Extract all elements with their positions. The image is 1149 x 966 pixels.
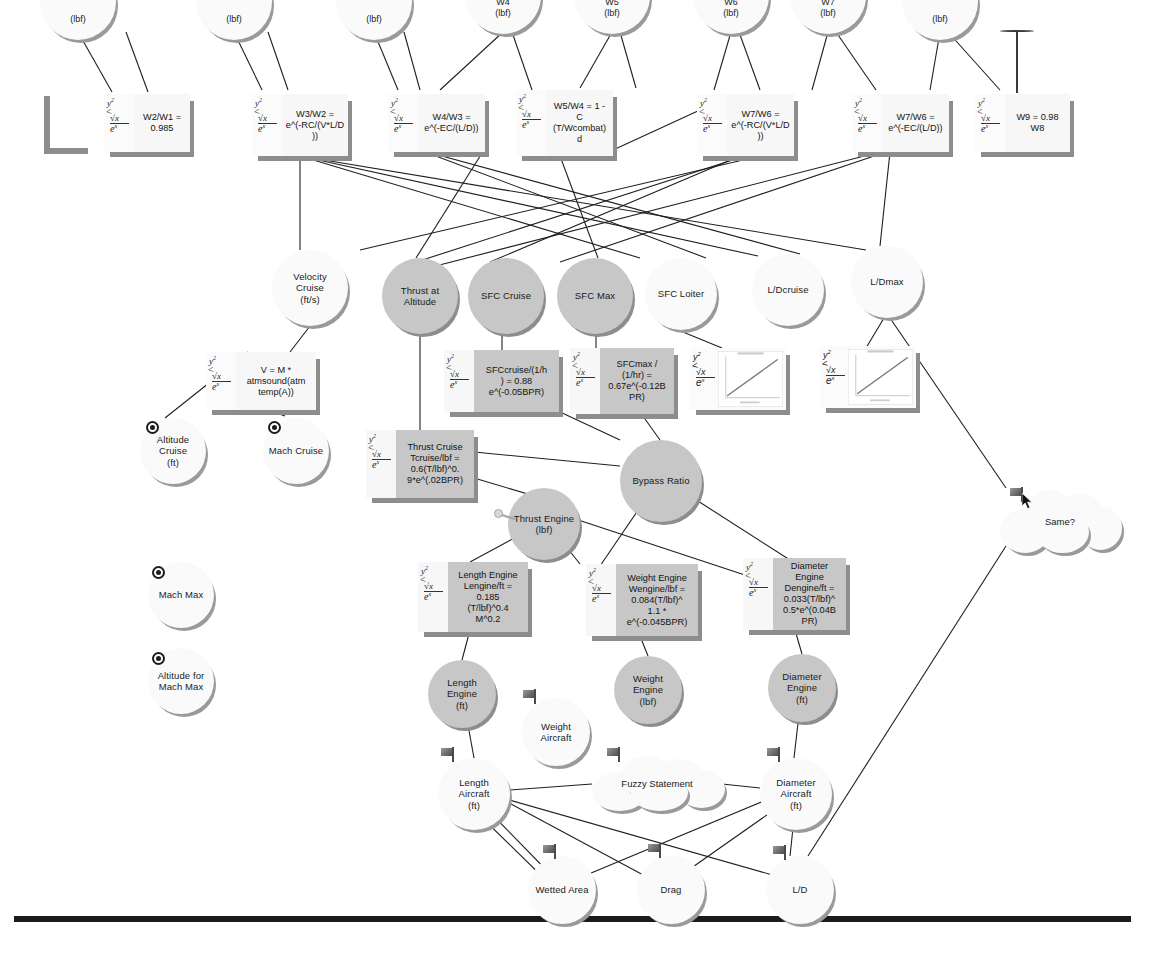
mouse-cursor xyxy=(1022,493,1034,510)
node-label: L/Dmax xyxy=(870,276,903,288)
edge xyxy=(374,32,398,90)
edge xyxy=(300,156,866,250)
node-sfc_max[interactable]: SFC Max xyxy=(557,258,633,334)
formula-box-f_leng[interactable]: y2<√xexLength Engine Lengine/ft = 0.185 … xyxy=(418,562,528,632)
math-glyph-icon: y2<√xex xyxy=(744,560,772,632)
math-glyph-icon: y2<√xex xyxy=(571,350,599,416)
formula-box-f_w2w1[interactable]: y2<√xexW2/W1 = 0.985 xyxy=(104,94,190,152)
node-bypass_ratio[interactable]: Bypass Ratio xyxy=(620,440,702,522)
node-thrust_altitude[interactable]: Thrust at Altitude xyxy=(382,258,458,334)
radio-option-icon-opt_mach_cruise[interactable] xyxy=(268,421,281,434)
chart-box-chart_ldcruise[interactable]: y2<√xex xyxy=(690,348,786,410)
top-node-w7[interactable]: W7 (lbf) xyxy=(790,0,866,34)
node-label: (lbf) xyxy=(226,14,242,25)
edge xyxy=(560,412,620,440)
formula-text: SFCcruise/(1/h ) = 0.88 e^(-0.05BPR) xyxy=(474,350,559,412)
cloud-fuzzy_statement[interactable]: Fuzzy Statement xyxy=(592,756,722,810)
formula-box-f_sfcc[interactable]: y2<√xexSFCcruise/(1/h ) = 0.88 e^(-0.05B… xyxy=(444,350,559,412)
flag-icon-flag_length_aircraft[interactable] xyxy=(441,747,457,762)
node-label: SFC Max xyxy=(575,290,615,302)
formula-box-f_w9[interactable]: y2<√xexW9 = 0.98 W8 xyxy=(975,94,1070,152)
node-sfc_loiter[interactable]: SFC Loiter xyxy=(645,258,717,330)
flag-icon-flag_ld[interactable] xyxy=(773,845,789,860)
math-glyph-icon: y2<√xex xyxy=(517,92,545,158)
formula-text: Thrust Cruise Tcruise/lbf = 0.6(T/lbf)^0… xyxy=(396,430,474,498)
node-label: Bypass Ratio xyxy=(632,475,689,487)
edge xyxy=(580,32,612,88)
top-node-w5[interactable]: W5 (lbf) xyxy=(574,0,650,34)
node-ld_max[interactable]: L/Dmax xyxy=(851,246,923,318)
top-node-w4[interactable]: W4 (lbf) xyxy=(465,0,541,34)
formula-box-f_deng[interactable]: y2<√xexDiameter Engine Dengine/ft = 0.03… xyxy=(743,558,846,630)
node-drag[interactable]: Drag xyxy=(637,856,705,924)
formula-box-f_w7w6a[interactable]: y2<√xexW7/W6 = e^(-RC/(V*L/D )) xyxy=(697,94,794,156)
equation-symbol: y2<√xex xyxy=(743,558,773,630)
node-diameter_aircraft[interactable]: Diameter Aircraft (ft) xyxy=(760,758,832,830)
node-label: SFC Loiter xyxy=(658,288,704,300)
edge xyxy=(795,630,802,654)
formula-box-f_w7w6b[interactable]: y2<√xexW7/W6 = e^(-EC/(L/D)) xyxy=(852,94,949,152)
edge xyxy=(126,32,148,92)
formula-box-f_w4w3[interactable]: y2<√xexW4/W3 = e^(-EC/(L/D)) xyxy=(388,94,485,152)
node-weight_aircraft[interactable]: Weight Aircraft xyxy=(522,698,590,766)
node-weight_engine[interactable]: Weight Engine (lbf) xyxy=(614,656,682,724)
node-label: (lbf) xyxy=(366,14,382,25)
node-length_aircraft[interactable]: Length Aircraft (ft) xyxy=(438,758,510,830)
edge xyxy=(678,330,722,348)
top-node-w6[interactable]: W6 (lbf) xyxy=(693,0,769,34)
formula-box-f_weng[interactable]: y2<√xexWeight Engine Wengine/lbf = 0.084… xyxy=(586,564,698,636)
flag-icon-flag_wetted_area[interactable] xyxy=(543,844,559,859)
radio-option-icon-opt_altitude_mach_max[interactable] xyxy=(152,652,165,665)
equation-symbol: y2<√xex xyxy=(388,94,418,152)
flag-pole xyxy=(554,844,556,859)
chart-box-chart_ldmax[interactable]: y2<√xex xyxy=(820,346,916,408)
radio-option-icon-opt_altitude_cruise[interactable] xyxy=(146,421,159,434)
flag-cloth xyxy=(1010,488,1021,496)
pin-icon[interactable] xyxy=(494,508,516,520)
top-node-w8[interactable]: (lbf) xyxy=(902,0,978,40)
math-glyph-icon: y2<√xex xyxy=(105,96,133,154)
node-ld_cruise[interactable]: L/Dcruise xyxy=(752,254,824,326)
node-thrust_engine[interactable]: Thrust Engine (lbf) xyxy=(508,488,580,560)
formula-text: Length Engine Lengine/ft = 0.185 (T/lbf)… xyxy=(448,562,528,632)
edge xyxy=(440,32,503,90)
edge xyxy=(722,784,760,788)
node-length_engine[interactable]: Length Engine (ft) xyxy=(428,660,496,728)
formula-text: W7/W6 = e^(-EC/(L/D)) xyxy=(882,94,949,152)
node-velocity_cruise[interactable]: Velocity Cruise (ft/s) xyxy=(272,250,348,326)
node-label: (lbf) xyxy=(70,14,86,25)
formula-box-f_v[interactable]: y2<√xexV = M * atmsound(atm temp(A)) xyxy=(206,352,316,410)
formula-box-f_w3w2[interactable]: y2<√xexW3/W2 = e^(-RC/(V*L/D )) xyxy=(252,94,348,156)
math-glyph-icon: y2<√xex xyxy=(976,96,1004,154)
flag-icon-flag_weight_aircraft[interactable] xyxy=(523,689,539,704)
top-node-w1[interactable]: (lbf) xyxy=(40,0,116,40)
node-diameter_engine[interactable]: Diameter Engine (ft) xyxy=(768,654,836,722)
cloud-label: Fuzzy Statement xyxy=(621,778,692,789)
flag-icon-flag_fuzzy_left[interactable] xyxy=(607,747,623,762)
flag-cloth xyxy=(441,748,452,756)
formula-box-f_w5w4[interactable]: y2<√xexW5/W4 = 1 - C (T/Wcombat) d xyxy=(516,90,613,156)
equation-symbol: y2<√xex xyxy=(697,94,727,156)
node-label: Weight Aircraft xyxy=(541,721,572,744)
math-glyph-icon: y2<√xex xyxy=(419,564,447,634)
formula-box-f_sfcm[interactable]: y2<√xexSFCmax / (1/hr) = 0.67e^(-0.12B P… xyxy=(570,348,674,414)
top-node-w2[interactable]: (lbf) xyxy=(196,0,272,40)
node-label: Altitude for Mach Max xyxy=(158,670,205,693)
radio-option-icon-opt_mach_max[interactable] xyxy=(152,566,165,579)
formula-text: W7/W6 = e^(-RC/(V*L/D )) xyxy=(727,94,794,156)
equation-symbol: y2<√xex xyxy=(252,94,282,156)
formula-text: SFCmax / (1/hr) = 0.67e^(-0.12B PR) xyxy=(600,348,674,414)
flag-icon-flag_drag[interactable] xyxy=(648,843,664,858)
top-node-w3[interactable]: (lbf) xyxy=(336,0,412,40)
flag-icon-flag_diameter_aircraft[interactable] xyxy=(767,747,783,762)
bracket-vertical xyxy=(44,96,50,154)
formula-text: W9 = 0.98 W8 xyxy=(1005,94,1070,152)
math-glyph-icon: y2<√xex xyxy=(367,432,395,500)
formula-box-f_tcr[interactable]: y2<√xexThrust Cruise Tcruise/lbf = 0.6(T… xyxy=(366,430,474,498)
node-label: Wetted Area xyxy=(535,884,588,896)
node-wetted_area[interactable]: Wetted Area xyxy=(528,856,596,924)
node-sfc_cruise[interactable]: SFC Cruise xyxy=(468,258,544,334)
flag-cloth xyxy=(607,748,618,756)
node-ld[interactable]: L/D xyxy=(766,856,834,924)
edge xyxy=(234,32,262,90)
